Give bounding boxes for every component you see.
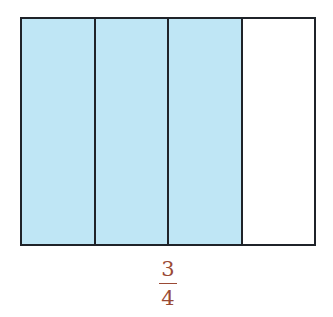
part-4 — [241, 19, 315, 244]
part-1 — [22, 19, 94, 244]
fraction-bar — [159, 283, 177, 284]
fraction-label: 3 4 — [148, 258, 188, 309]
fraction-numerator: 3 — [148, 258, 188, 280]
part-3 — [167, 19, 241, 244]
fraction-rectangle — [20, 17, 316, 246]
part-2 — [94, 19, 168, 244]
fraction-denominator: 4 — [148, 287, 188, 309]
